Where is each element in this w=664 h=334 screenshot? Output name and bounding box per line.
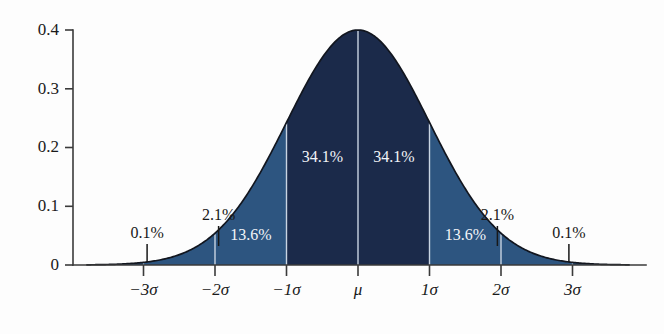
- annotation-2-1-percent-left: 2.1%: [202, 206, 235, 223]
- x-tick-label-plus1sigma: 1σ: [421, 280, 439, 299]
- annotation-2-1-percent-right: 2.1%: [481, 206, 514, 223]
- annotation-34-1-percent-right: 34.1%: [373, 148, 414, 165]
- annotation-34-1-percent-left: 34.1%: [302, 148, 343, 165]
- y-axis-ticks: [65, 30, 73, 265]
- x-axis-ticks: [144, 265, 573, 276]
- y-tick-label-0-3: 0.3: [38, 79, 59, 98]
- band-divider-lines: [144, 31, 573, 265]
- x-tick-label-minus2sigma: −2σ: [201, 280, 230, 299]
- normal-distribution-chart: 0 0.1 0.2 0.3 0.4 −3σ −2σ −1σ μ 1σ 2σ 3σ…: [0, 0, 664, 334]
- x-tick-label-mu: μ: [353, 280, 363, 299]
- annotation-0-1-percent-right: 0.1%: [552, 224, 585, 241]
- curve-fill-bands: [86, 18, 629, 277]
- x-tick-label-plus3sigma: 3σ: [563, 280, 582, 299]
- annotation-13-6-percent-right: 13.6%: [445, 226, 486, 243]
- y-tick-label-0: 0: [51, 255, 60, 274]
- annotation-0-1-percent-left: 0.1%: [130, 224, 163, 241]
- y-tick-label-0-2: 0.2: [38, 137, 59, 156]
- x-tick-label-minus1sigma: −1σ: [272, 280, 301, 299]
- chart-canvas: 0 0.1 0.2 0.3 0.4 −3σ −2σ −1σ μ 1σ 2σ 3σ…: [0, 0, 664, 334]
- x-tick-label-plus2sigma: 2σ: [493, 280, 511, 299]
- x-tick-label-minus3sigma: −3σ: [129, 280, 158, 299]
- annotation-13-6-percent-left: 13.6%: [230, 226, 271, 243]
- y-tick-label-0-1: 0.1: [38, 196, 59, 215]
- y-tick-label-0-4: 0.4: [38, 20, 60, 39]
